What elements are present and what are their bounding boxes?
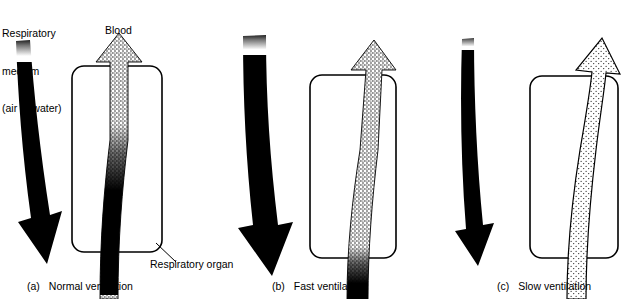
respiratory-medium-label-line2: medium — [2, 65, 62, 78]
caption-c: (c)Slow ventilation — [497, 280, 591, 292]
medium-arrow-c — [455, 38, 494, 266]
caption-c-text: Slow ventilation — [518, 280, 591, 292]
diagram-canvas — [0, 0, 623, 299]
respiratory-medium-label: Respiratory medium (air or water) — [2, 2, 62, 140]
caption-a: (a)Normal ventilation — [27, 280, 133, 292]
respiratory-ventilation-figure: Respiratory medium (air or water) Blood … — [0, 0, 623, 299]
respiratory-medium-label-line3: (air or water) — [2, 102, 62, 115]
panel-c — [455, 38, 620, 299]
medium-arrow-b — [238, 35, 293, 276]
caption-b-tag: (b) — [272, 280, 285, 292]
caption-c-tag: (c) — [497, 280, 509, 292]
caption-b: (b)Fast ventilation — [272, 280, 364, 292]
caption-b-text: Fast ventilation — [294, 280, 365, 292]
panel-b — [238, 35, 396, 299]
caption-a-text: Normal ventilation — [49, 280, 133, 292]
respiratory-organ-label: Respiratory organ — [150, 258, 233, 271]
blood-label: Blood — [105, 24, 132, 37]
caption-a-tag: (a) — [27, 280, 40, 292]
respiratory-medium-label-line1: Respiratory — [2, 27, 62, 40]
